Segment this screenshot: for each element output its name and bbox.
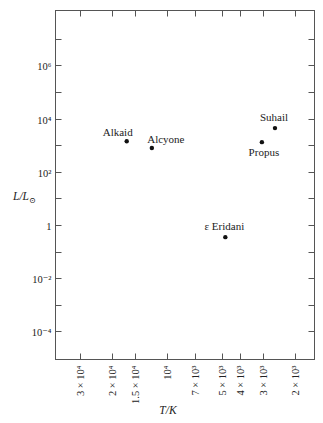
y-tick-label: 10⁻² — [32, 274, 51, 285]
x-tick-label: 5 × 10³ — [217, 366, 228, 396]
star-dot — [273, 126, 277, 130]
x-tick-label: 3 × 10⁴ — [75, 365, 86, 396]
x-tick-label: 2 × 10³ — [290, 366, 301, 396]
star-point: ε Eridani — [204, 220, 244, 239]
star-point: Propus — [249, 140, 280, 158]
x-axis-title: T/K — [159, 404, 178, 416]
star-point: Alcyone — [147, 133, 184, 150]
star-label: Suhail — [260, 111, 288, 123]
x-tick-label: 7 × 10³ — [190, 366, 201, 396]
star-dot — [223, 235, 227, 239]
star-label: Alcyone — [147, 133, 184, 145]
star-dot — [260, 140, 264, 144]
x-tick-label: 10⁴ — [162, 365, 173, 380]
x-tick-label: 1.5 × 10⁴ — [130, 365, 141, 404]
y-tick-label: 10⁴ — [37, 115, 52, 126]
x-axis-ticks: 3 × 10⁴2 × 10⁴1.5 × 10⁴10⁴7 × 10³5 × 10³… — [75, 11, 301, 404]
star-point: Alkaid — [103, 126, 133, 143]
hr-diagram-chart: 3 × 10⁴2 × 10⁴1.5 × 10⁴10⁴7 × 10³5 × 10³… — [0, 0, 323, 423]
data-points: AlkaidAlcyoneSuhailPropusε Eridani — [103, 111, 288, 239]
star-dot — [150, 146, 154, 150]
y-axis-title: L/L⊙ — [12, 190, 36, 205]
star-point: Suhail — [260, 111, 288, 130]
star-dot — [125, 139, 129, 143]
x-tick-label: 3 × 10³ — [258, 366, 269, 396]
star-label: ε Eridani — [204, 220, 244, 232]
y-tick-label: 1 — [46, 221, 51, 232]
y-axis-ticks: 10⁶10⁴10²110⁻²10⁻⁴ — [32, 40, 315, 338]
x-tick-label: 2 × 10⁴ — [107, 365, 118, 396]
x-tick-label: 4 × 10³ — [235, 366, 246, 396]
plot-frame — [56, 11, 315, 360]
y-tick-label: 10⁻⁴ — [32, 327, 52, 338]
star-label: Propus — [249, 146, 280, 158]
y-tick-label: 10² — [38, 168, 52, 179]
y-tick-label: 10⁶ — [37, 61, 52, 72]
star-label: Alkaid — [103, 126, 133, 138]
